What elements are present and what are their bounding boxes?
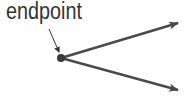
lower-ray-arrow-icon — [61, 58, 178, 90]
endpoint-dot-icon — [57, 54, 65, 62]
upper-ray-arrow-icon — [61, 23, 178, 58]
pointer-arrow-icon — [49, 29, 59, 52]
angle-diagram — [0, 0, 186, 102]
